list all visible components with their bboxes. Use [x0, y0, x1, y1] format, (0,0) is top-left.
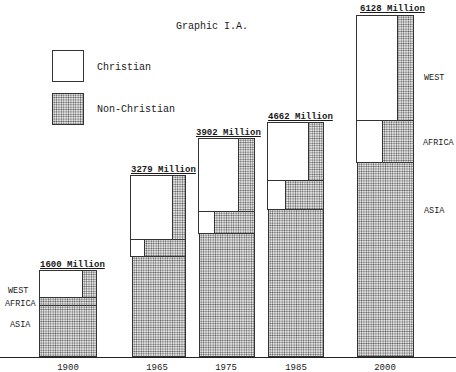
segment-asia-non-christian: [132, 256, 186, 357]
region-label-asia: ASIA: [10, 320, 30, 330]
segment-asia-non-christian: [268, 209, 324, 357]
segment-west-christian: [198, 138, 239, 212]
bar-total-label: 3279 Million: [131, 165, 196, 175]
x-tick-1965: 1965: [127, 363, 187, 372]
region-label-africa: AFRICA: [5, 299, 36, 309]
bar-total-label: 3902 Million: [196, 128, 261, 138]
x-tick-1900: 1900: [38, 363, 98, 372]
x-axis-line: [0, 357, 456, 358]
segment-africa-christian: [356, 120, 383, 163]
segment-west-christian: [267, 122, 309, 181]
segment-west-christian: [39, 270, 83, 298]
segment-asia-non-christian: [357, 162, 414, 357]
legend-label-non-christian: Non-Christian: [97, 104, 175, 115]
segment-africa-christian: [130, 239, 145, 257]
bar-total-label: 4662 Million: [268, 112, 333, 122]
bar-total-label: 6128 Million: [360, 4, 425, 14]
segment-africa-christian: [267, 180, 286, 210]
legend-swatch-non-christian: [52, 93, 84, 125]
segment-asia-non-christian: [39, 305, 97, 357]
region-label-africa-right: AFRICA: [423, 138, 454, 148]
segment-asia-non-christian: [199, 233, 255, 357]
x-tick-1975: 1975: [196, 363, 256, 372]
region-label-west-right: WEST: [424, 73, 444, 83]
segment-west-christian: [130, 175, 173, 240]
x-tick-1985: 1985: [266, 363, 326, 372]
region-label-west: WEST: [8, 286, 28, 296]
region-label-asia-right: ASIA: [424, 206, 444, 216]
legend-label-christian: Christian: [97, 62, 151, 73]
segment-africa-christian: [198, 211, 215, 234]
bar-total-label: 1600 Million: [40, 260, 105, 270]
chart-title: Graphic I.A.: [176, 21, 248, 32]
segment-west-christian: [356, 15, 398, 121]
x-tick-2000: 2000: [355, 363, 415, 372]
legend-swatch-christian: [52, 50, 84, 82]
